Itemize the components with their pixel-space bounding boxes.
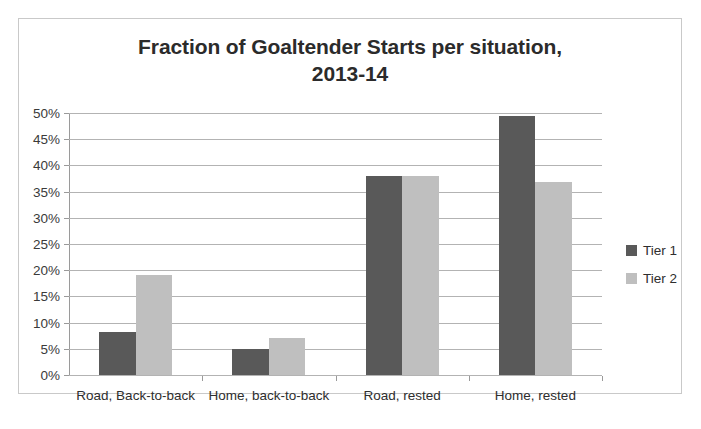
x-axis-label: Home, rested xyxy=(495,388,576,403)
bar xyxy=(499,116,536,375)
y-tick-label: 25% xyxy=(33,237,60,252)
y-tick-mark xyxy=(64,296,69,297)
x-axis-label: Home, back-to-back xyxy=(208,388,329,403)
chart-frame: Fraction of Goaltender Starts per situat… xyxy=(18,18,682,394)
bar xyxy=(269,338,306,375)
y-tick-label: 10% xyxy=(33,315,60,330)
chart-title-line-1: Fraction of Goaltender Starts per situat… xyxy=(19,33,681,60)
chart-legend: Tier 1Tier 2 xyxy=(626,243,677,286)
bar xyxy=(366,176,403,375)
bar xyxy=(136,275,173,375)
y-tick-mark xyxy=(64,349,69,350)
y-tick-label: 40% xyxy=(33,158,60,173)
legend-swatch-icon xyxy=(626,245,637,256)
y-tick-label: 50% xyxy=(33,106,60,121)
y-tick-label: 5% xyxy=(40,341,60,356)
legend-label: Tier 2 xyxy=(643,271,677,286)
y-tick-label: 0% xyxy=(40,368,60,383)
bar xyxy=(402,176,439,375)
legend-item[interactable]: Tier 1 xyxy=(626,243,677,258)
y-tick-mark xyxy=(64,244,69,245)
y-tick-mark xyxy=(64,139,69,140)
y-tick-label: 45% xyxy=(33,132,60,147)
chart-title-line-2: 2013-14 xyxy=(19,60,681,87)
y-tick-mark xyxy=(64,165,69,166)
y-tick-label: 35% xyxy=(33,184,60,199)
y-tick-label: 30% xyxy=(33,210,60,225)
legend-label: Tier 1 xyxy=(643,243,677,258)
x-tick-mark xyxy=(469,376,470,381)
y-tick-mark xyxy=(64,270,69,271)
x-tick-mark xyxy=(602,376,603,381)
bar xyxy=(99,332,136,375)
plot-area: 50%45%40%35%30%25%20%15%10%5%0% Road, Ba… xyxy=(69,113,602,376)
y-tick-mark xyxy=(64,192,69,193)
y-tick-label: 20% xyxy=(33,263,60,278)
bar xyxy=(232,349,269,375)
chart-title: Fraction of Goaltender Starts per situat… xyxy=(19,33,681,88)
x-axis-label: Road, rested xyxy=(363,388,440,403)
bar xyxy=(535,182,572,375)
y-tick-mark xyxy=(64,323,69,324)
legend-item[interactable]: Tier 2 xyxy=(626,271,677,286)
x-tick-mark xyxy=(202,376,203,381)
x-axis-label: Road, Back-to-back xyxy=(76,388,195,403)
y-tick-mark xyxy=(64,218,69,219)
legend-swatch-icon xyxy=(626,273,637,284)
gridline xyxy=(69,113,602,114)
y-tick-label: 15% xyxy=(33,289,60,304)
x-tick-mark xyxy=(336,376,337,381)
y-tick-mark xyxy=(64,375,69,376)
y-tick-mark xyxy=(64,113,69,114)
